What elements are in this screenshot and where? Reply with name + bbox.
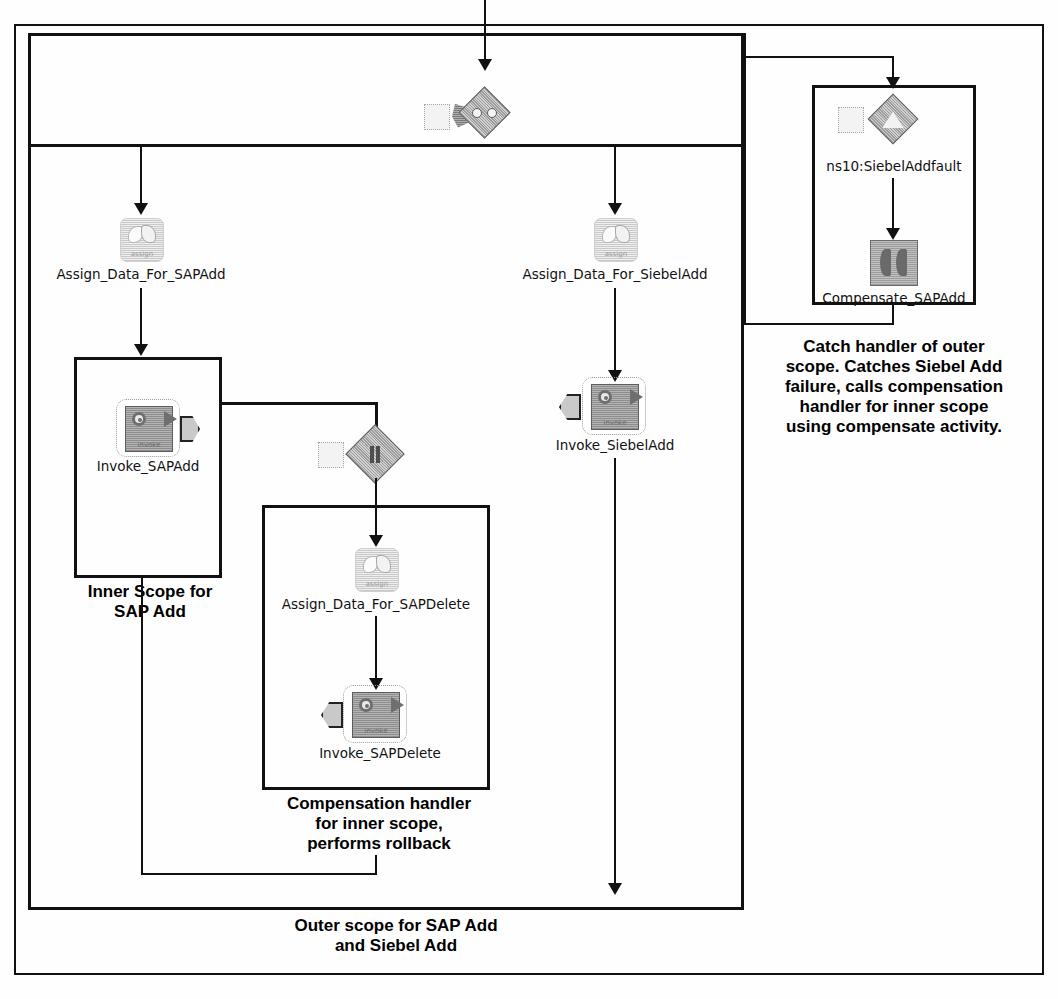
assign-sap-delete-node[interactable]: assign <box>355 548 397 590</box>
assign-sap-add-label: Assign_Data_For_SAPAdd <box>21 266 261 282</box>
catch-handler-caption-line5: using compensate activity. <box>748 417 1040 437</box>
assign-siebel-add-label: Assign_Data_For_SiebelAdd <box>495 266 735 282</box>
catch-fault-to-compensate-arrowhead <box>886 228 900 240</box>
siebel-branch-tail-arrowhead <box>608 883 622 895</box>
assign-sapadd-to-inner-scope-connector <box>140 288 142 348</box>
entry-arrowhead <box>478 59 492 71</box>
outer-scope-caption: Outer scope for SAP Add and Siebel Add <box>196 916 596 956</box>
inner-scope-caption: Inner Scope for SAP Add <box>60 582 240 622</box>
catch-handler-caption-line3: failure, calls compensation <box>748 377 1040 397</box>
inner-scope-caption-line1: Inner Scope for <box>60 582 240 602</box>
invoke-icon: invoke <box>591 384 639 430</box>
branch-left-connector <box>140 146 142 208</box>
catch-fault-label: ns10:SiebelAddfault <box>812 158 976 174</box>
catch-entry-hline <box>744 56 894 58</box>
compensation-handler-caption: Compensation handler for inner scope, pe… <box>240 794 518 854</box>
catch-return-hline <box>744 323 894 325</box>
compensation-return-vline <box>375 855 377 875</box>
invoke-sap-add-node[interactable]: invoke <box>125 406 171 450</box>
assign-sapadd-to-inner-scope-arrowhead <box>134 344 148 356</box>
catch-handler-caption-line2: scope. Catches Siebel Add <box>748 357 1040 377</box>
branch-left-arrowhead <box>134 203 148 215</box>
compensation-handler-caption-line1: Compensation handler <box>240 794 518 814</box>
assign-icon: assign <box>355 548 399 592</box>
compensation-handler-caption-line3: performs rollback <box>240 834 518 854</box>
compensation-return-hline <box>141 873 377 875</box>
assign-siebel-add-node[interactable]: assign <box>594 218 636 260</box>
invoke-icon: invoke <box>352 692 400 738</box>
compensate-icon <box>870 240 918 286</box>
branch-right-connector <box>614 146 616 208</box>
invoke-sap-delete-node[interactable]: invoke <box>352 692 398 736</box>
catch-right-rail <box>744 33 746 325</box>
assign-sap-add-node[interactable]: assign <box>120 218 162 260</box>
inner-scope-left-rail <box>141 578 143 874</box>
assign-siebeladd-to-invoke-connector <box>614 288 616 374</box>
entry-connector <box>484 0 486 62</box>
invoke-sap-delete-label: Invoke_SAPDelete <box>300 745 460 761</box>
catch-return-vline <box>892 305 894 325</box>
catch-handler-caption-line4: handler for inner scope <box>748 397 1040 417</box>
invoke-siebel-add-label: Invoke_SiebelAdd <box>544 437 686 453</box>
inner-scope-caption-line2: SAP Add <box>60 602 240 622</box>
invoke-sap-add-label: Invoke_SAPAdd <box>78 458 218 474</box>
assign-sapdelete-to-invoke-connector <box>375 616 377 682</box>
siebel-branch-tail-connector <box>614 458 616 888</box>
flow-collapse-toggle[interactable] <box>424 104 450 130</box>
catch-handler-caption-line1: Catch handler of outer <box>748 337 1040 357</box>
outer-scope-caption-line2: and Siebel Add <box>196 936 596 956</box>
invoke-siebel-add-node[interactable]: invoke <box>591 384 637 428</box>
catch-fault-to-compensate-connector <box>892 178 894 232</box>
catch-handler-caption: Catch handler of outer scope. Catches Si… <box>748 337 1040 437</box>
invoke-icon: invoke <box>125 406 173 452</box>
assign-icon: assign <box>594 218 638 262</box>
catch-collapse-toggle[interactable] <box>838 107 864 133</box>
outer-scope-header-separator <box>28 144 744 147</box>
assign-icon: assign <box>120 218 164 262</box>
outer-scope-caption-line1: Outer scope for SAP Add <box>196 916 596 936</box>
inner-scope-to-compensation-hline <box>222 402 377 405</box>
compensation-handler-caption-line2: for inner scope, <box>240 814 518 834</box>
branch-right-arrowhead <box>608 203 622 215</box>
compensation-collapse-toggle[interactable] <box>318 442 344 468</box>
diagram-canvas: assign Assign_Data_For_SAPAdd invoke Inv… <box>0 0 1058 999</box>
compensate-sap-add-node[interactable] <box>870 240 916 284</box>
compensate-sap-add-label: Compensate_SAPAdd <box>802 290 986 306</box>
assign-sap-delete-label: Assign_Data_For_SAPDelete <box>266 596 486 612</box>
